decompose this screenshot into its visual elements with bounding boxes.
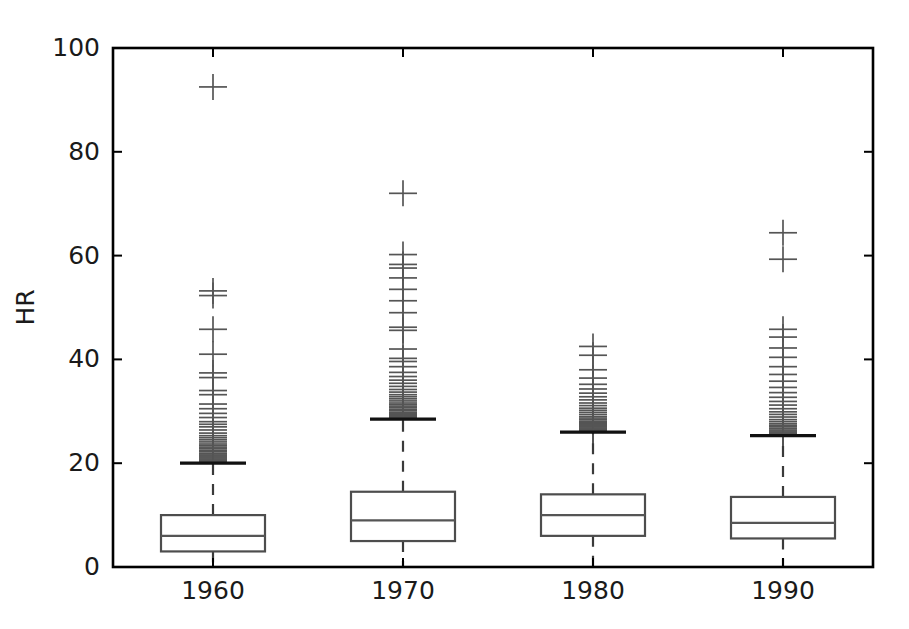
box-plot-canvas: 0204060801001960197019801990HR bbox=[0, 0, 909, 629]
x-tick-label: 1980 bbox=[561, 576, 625, 605]
y-tick-label: 60 bbox=[68, 241, 100, 270]
y-tick-label: 100 bbox=[52, 33, 100, 62]
x-tick-label: 1960 bbox=[181, 576, 245, 605]
box-iqr bbox=[161, 515, 265, 551]
box-plot-figure: 0204060801001960197019801990HR bbox=[0, 0, 909, 629]
x-tick-label: 1990 bbox=[751, 576, 815, 605]
y-tick-label: 0 bbox=[84, 552, 100, 581]
x-tick-label: 1970 bbox=[371, 576, 435, 605]
y-axis-title: HR bbox=[11, 289, 40, 325]
y-tick-label: 80 bbox=[68, 137, 100, 166]
box-iqr bbox=[731, 497, 835, 539]
y-tick-label: 40 bbox=[68, 344, 100, 373]
box-iqr bbox=[351, 492, 455, 541]
y-tick-label: 20 bbox=[68, 448, 100, 477]
